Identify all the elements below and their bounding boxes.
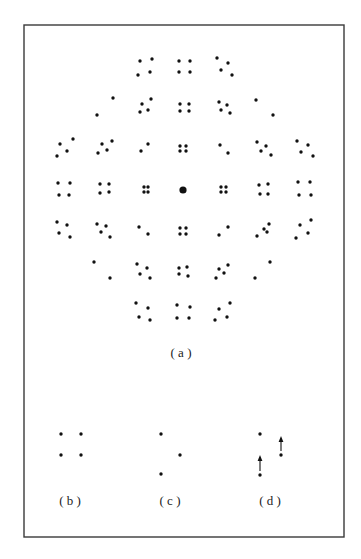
dot	[177, 59, 180, 62]
dot	[57, 193, 60, 196]
dot	[187, 109, 190, 112]
dot-cluster	[213, 301, 231, 321]
diagram-figure: ( a ) ( b ) ( c ) ( d )	[0, 0, 361, 559]
dot	[79, 453, 82, 456]
dot	[139, 149, 142, 152]
dot	[135, 262, 138, 265]
dot	[142, 190, 145, 193]
dot	[178, 232, 181, 235]
dot	[218, 143, 221, 146]
dot	[175, 316, 178, 319]
dot	[225, 315, 228, 318]
dot	[258, 432, 261, 435]
dot	[253, 276, 256, 279]
dot-cluster	[139, 142, 149, 152]
dot	[296, 180, 299, 183]
dot	[297, 193, 300, 196]
dot	[149, 97, 152, 100]
dot	[184, 149, 187, 152]
dot	[138, 110, 141, 113]
dot	[230, 73, 233, 76]
dot	[187, 316, 190, 319]
dot	[146, 190, 149, 193]
dot	[266, 192, 269, 195]
dot	[265, 230, 268, 233]
dot	[98, 182, 101, 185]
dot	[178, 453, 181, 456]
dot-cluster	[175, 303, 191, 319]
dot	[178, 102, 181, 105]
dot-cluster	[178, 102, 190, 112]
dot	[184, 232, 187, 235]
dot	[306, 231, 309, 234]
dot	[295, 139, 298, 142]
dot-cluster	[55, 137, 74, 157]
dot	[107, 182, 110, 185]
dot	[228, 301, 231, 304]
dot	[188, 70, 191, 73]
dot	[108, 235, 111, 238]
dot-cluster	[294, 218, 312, 239]
dot	[58, 142, 61, 145]
dot	[100, 142, 103, 145]
lattice-row-2	[95, 96, 274, 116]
dot	[255, 140, 258, 143]
dot	[184, 144, 187, 147]
dot-cluster	[255, 222, 270, 237]
dot	[56, 181, 59, 184]
dot	[217, 267, 220, 270]
dot	[92, 260, 95, 263]
dot	[217, 307, 220, 310]
dot-cluster	[217, 100, 231, 114]
dot-cluster	[295, 139, 314, 157]
dot	[68, 235, 71, 238]
dot	[214, 276, 217, 279]
dot	[258, 473, 261, 476]
dot	[178, 109, 181, 112]
dot-cluster	[178, 144, 187, 152]
dot-cluster	[219, 185, 227, 193]
dot-cluster	[217, 225, 229, 236]
dot-cluster	[218, 143, 229, 154]
dot	[266, 182, 269, 185]
dot-cluster	[134, 301, 151, 321]
dot	[137, 225, 140, 228]
dot	[219, 190, 222, 193]
dot	[107, 190, 110, 193]
dot	[309, 193, 312, 196]
dot	[146, 108, 149, 111]
dot	[271, 113, 274, 116]
dot	[95, 222, 98, 225]
dot	[217, 233, 220, 236]
dot-cluster	[135, 262, 151, 279]
dot	[186, 274, 189, 277]
lattice-row-1	[136, 56, 233, 76]
dot	[311, 154, 314, 157]
dot	[258, 192, 261, 195]
dot	[226, 151, 229, 154]
dot-cluster	[257, 182, 269, 195]
dot	[215, 56, 218, 59]
dot	[59, 453, 62, 456]
dot	[226, 61, 229, 64]
dot	[136, 73, 139, 76]
dot	[213, 318, 216, 321]
dot	[175, 303, 178, 306]
dot	[267, 222, 270, 225]
dot	[159, 432, 162, 435]
dot	[148, 276, 151, 279]
dot-cluster	[177, 59, 191, 73]
dot	[150, 57, 153, 60]
dot	[224, 190, 227, 193]
dot-cluster	[253, 260, 271, 279]
dot	[99, 230, 102, 233]
dot-cluster	[254, 98, 274, 116]
dot	[104, 224, 107, 227]
dot-cluster	[96, 139, 113, 154]
dot	[187, 102, 190, 105]
dot	[294, 236, 297, 239]
dot	[68, 181, 71, 184]
dot	[65, 223, 68, 226]
dot	[111, 96, 114, 99]
dot	[159, 472, 162, 475]
